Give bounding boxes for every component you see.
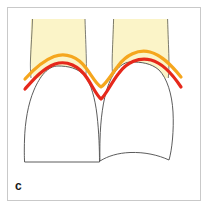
dental-illustration	[0, 0, 209, 210]
panel-label: c	[15, 180, 22, 192]
tooth-group	[24, 62, 173, 162]
figure-panel: c	[0, 0, 209, 210]
